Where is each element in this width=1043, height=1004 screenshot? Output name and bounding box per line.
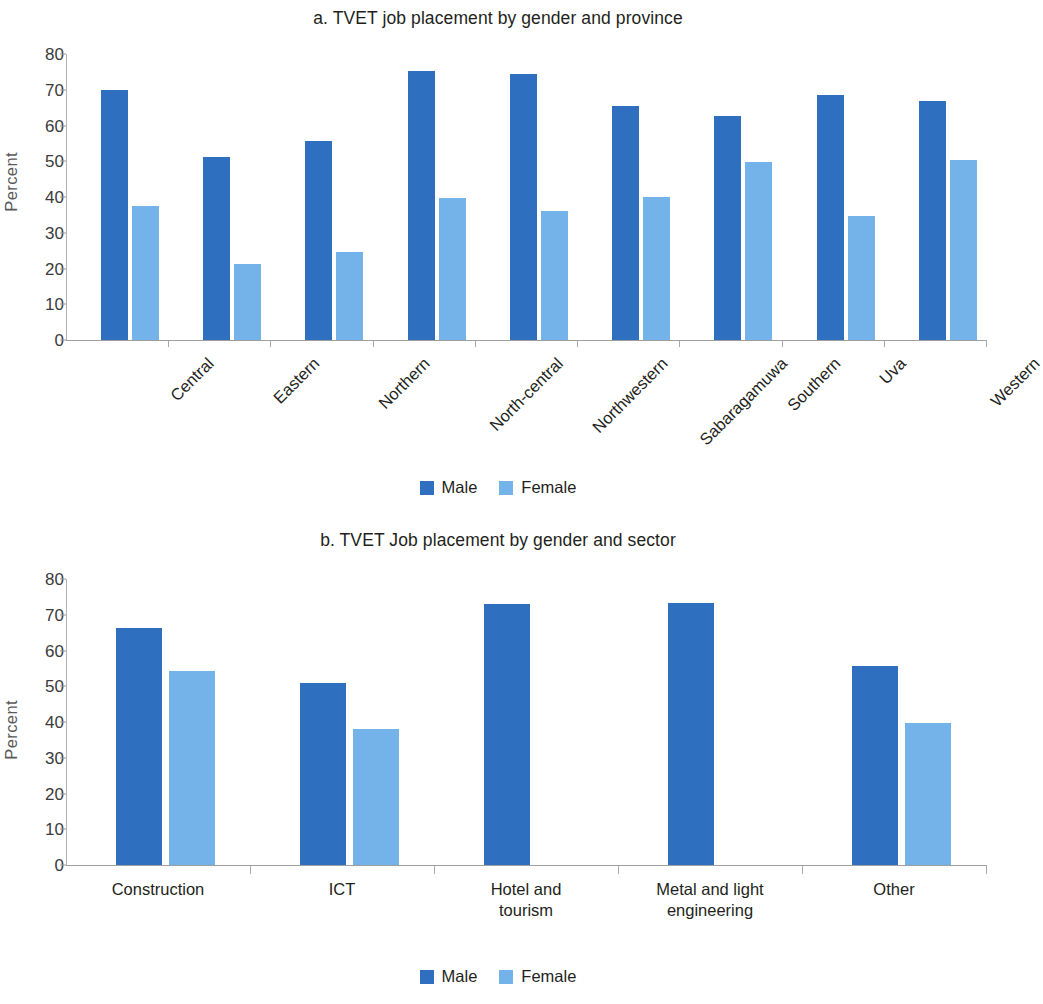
y-axis-tick-label: 40 [12, 189, 64, 206]
x-axis-tick-mark [618, 865, 619, 874]
chart-a-title: a. TVET job placement by gender and prov… [0, 0, 996, 29]
chart-a-legend: Male Female [0, 478, 996, 497]
y-axis-tick-label: 60 [12, 117, 64, 134]
x-axis-category-label: Sabaragamuwa [696, 354, 791, 449]
bar-female [745, 162, 772, 340]
bar-female [336, 252, 363, 340]
x-axis-category-label: ICT [257, 879, 427, 900]
legend-swatch-male-icon [420, 970, 434, 984]
x-axis-category-label: Construction [73, 879, 243, 900]
y-axis-tick-label: 10 [12, 296, 64, 313]
bar-male [612, 106, 639, 340]
x-axis-category-label-line: ICT [257, 879, 427, 900]
x-axis-category-label: North-central [486, 354, 567, 435]
bar-male [203, 157, 230, 340]
y-axis-tick-label: 0 [12, 332, 64, 349]
x-axis-tick-mark [250, 865, 251, 874]
x-axis-category-label: Metal and lightengineering [625, 879, 795, 920]
y-axis-tick-label: 40 [12, 714, 64, 731]
chart-a-y-axis: 01020304050607080 [0, 42, 64, 342]
legend-swatch-female-icon [499, 970, 513, 984]
bar-female [905, 723, 951, 865]
x-axis-category-label: Southern [784, 354, 845, 415]
bar-group [434, 565, 618, 865]
x-axis-category-label: Northern [374, 354, 433, 413]
chart-a-legend-female-label: Female [521, 478, 576, 497]
chart-b-bars [66, 565, 986, 865]
bar-male [668, 603, 714, 865]
chart-a-legend-male-label: Male [442, 478, 478, 497]
bar-male [300, 683, 346, 865]
x-axis-tick-mark [475, 340, 476, 347]
legend-swatch-female-icon [499, 481, 513, 495]
x-axis-category-label: Uva [875, 354, 909, 388]
x-axis-category-label: Eastern [270, 354, 324, 408]
chart-a-legend-male: Male [420, 478, 478, 497]
bar-group [802, 565, 986, 865]
x-axis-category-label: Central [167, 354, 218, 405]
bar-male [817, 95, 844, 340]
y-axis-tick-label: 80 [12, 46, 64, 63]
bar-group [66, 565, 250, 865]
y-axis-tick-label: 10 [12, 821, 64, 838]
x-axis-tick-mark [679, 340, 680, 347]
x-axis-tick-mark [802, 865, 803, 874]
x-axis-category-label-line: Metal and light [625, 879, 795, 900]
y-axis-tick-label: 20 [12, 260, 64, 277]
chart-b-legend-female: Female [499, 967, 576, 986]
bar-group [373, 42, 475, 340]
chart-a-plot-area: Percent 01020304050607080 CentralEastern… [0, 42, 996, 342]
chart-b-legend-male-label: Male [442, 967, 478, 986]
bar-group [577, 42, 679, 340]
bar-group [679, 42, 781, 340]
chart-figure-a: a. TVET job placement by gender and prov… [0, 0, 996, 512]
x-axis-tick-mark [986, 865, 987, 874]
y-axis-tick-label: 70 [12, 606, 64, 623]
chart-a-baseline [66, 340, 986, 341]
x-axis-tick-mark [884, 340, 885, 347]
bar-male [919, 101, 946, 340]
bar-group [884, 42, 986, 340]
bar-female [541, 211, 568, 340]
chart-b-baseline [66, 865, 986, 866]
legend-swatch-male-icon [420, 481, 434, 495]
x-axis-tick-mark [434, 865, 435, 874]
x-axis-tick-mark [168, 340, 169, 347]
bar-female [848, 216, 875, 340]
chart-b-title: b. TVET Job placement by gender and sect… [0, 512, 996, 551]
bar-group [250, 565, 434, 865]
x-axis-category-label: Other [809, 879, 979, 900]
bar-group [66, 42, 168, 340]
bar-male [101, 90, 128, 340]
bar-female [439, 198, 466, 340]
y-axis-tick-label: 20 [12, 785, 64, 802]
bar-group [475, 42, 577, 340]
x-axis-category-label: Northwestern [589, 354, 672, 437]
bar-male [852, 666, 898, 865]
bar-group [270, 42, 372, 340]
bar-male [484, 604, 530, 865]
bar-male [408, 71, 435, 340]
bar-group [618, 565, 802, 865]
bar-female [169, 671, 215, 865]
bar-group [782, 42, 884, 340]
y-axis-tick-label: 50 [12, 153, 64, 170]
bar-group [168, 42, 270, 340]
chart-b-legend: Male Female [0, 967, 996, 986]
chart-b-legend-female-label: Female [521, 967, 576, 986]
y-axis-tick-label: 30 [12, 749, 64, 766]
bar-female [643, 197, 670, 340]
chart-a-bars [66, 42, 986, 340]
x-axis-tick-mark [373, 340, 374, 347]
bar-female [132, 206, 159, 340]
bar-male [714, 116, 741, 341]
x-axis-tick-mark [782, 340, 783, 347]
x-axis-tick-mark [577, 340, 578, 347]
chart-b-plot-area: Percent 01020304050607080 ConstructionIC… [0, 565, 996, 885]
y-axis-tick-label: 80 [12, 571, 64, 588]
x-axis-category-label: Hotel andtourism [441, 879, 611, 920]
x-axis-category-label-line: tourism [441, 900, 611, 921]
y-axis-tick-label: 0 [12, 857, 64, 874]
bar-male [510, 74, 537, 340]
x-axis-category-label-line: engineering [625, 900, 795, 921]
